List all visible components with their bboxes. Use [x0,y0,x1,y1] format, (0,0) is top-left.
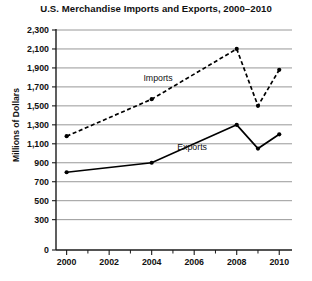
y-tick-label: 700 [34,177,49,187]
data-point-imports [256,104,260,108]
series-line-exports [67,125,280,172]
chart-container: U.S. Merchandise Imports and Exports, 20… [0,0,312,281]
data-point-exports [235,123,239,127]
y-tick-label: 1,900 [27,63,49,73]
data-series [65,47,282,174]
y-tick-label: 300 [34,215,49,225]
y-tick-label: 1,700 [27,82,49,92]
data-point-imports [150,97,154,101]
x-axis-ticks: 200020022004200620082010 [57,250,289,267]
plot-area: 03005007009001,1001,3001,5001,7001,9002,… [0,0,312,281]
x-tick-label: 2002 [99,257,119,267]
y-axis-ticks: 03005007009001,1001,3001,5001,7001,9002,… [27,25,56,255]
y-tick-label: 900 [34,158,49,168]
series-inline-label: Exports [177,142,207,152]
data-point-imports [65,134,69,138]
axis-lines [56,29,292,250]
data-point-imports [277,68,281,72]
data-point-exports [256,146,260,150]
x-tick-label: 2000 [57,257,77,267]
series-line-imports [67,49,280,136]
data-point-exports [150,161,154,165]
x-tick-label: 2004 [142,257,162,267]
y-tick-label: 0 [44,245,49,255]
data-point-exports [65,170,69,174]
y-tick-label: 1,100 [27,139,49,149]
data-point-imports [235,47,239,51]
y-tick-label: 1,500 [27,101,49,111]
x-tick-label: 2008 [227,257,247,267]
x-tick-label: 2006 [184,257,204,267]
x-tick-label: 2010 [269,257,289,267]
data-point-exports [277,132,281,136]
series-inline-label: Imports [143,73,173,83]
y-tick-label: 2,300 [27,25,49,35]
y-tick-label: 2,100 [27,44,49,54]
y-tick-label: 1,300 [27,120,49,130]
y-tick-label: 500 [34,196,49,206]
